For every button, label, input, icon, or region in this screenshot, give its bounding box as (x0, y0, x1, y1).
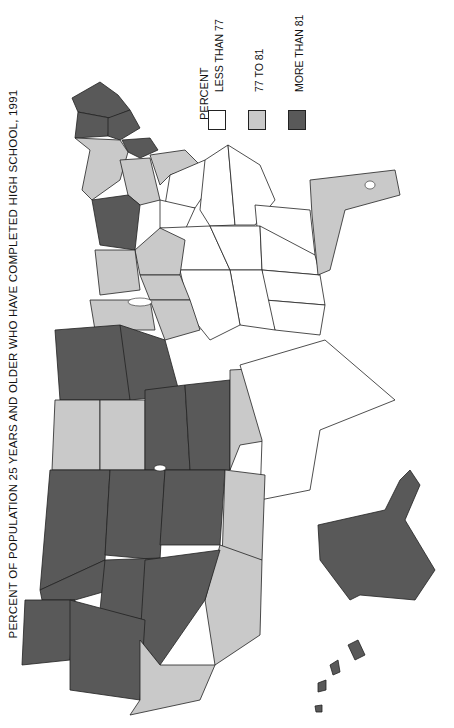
us-choropleth-map (0, 0, 454, 728)
state-CA (130, 640, 215, 715)
state-NM (222, 470, 265, 560)
state-NY (75, 138, 128, 200)
state-ND (52, 400, 100, 470)
legend-swatch-low (208, 110, 226, 130)
state-FL (310, 170, 400, 275)
state-CO (160, 470, 225, 545)
lake-michigan (128, 298, 152, 306)
state-MS (262, 270, 325, 305)
state-VT (92, 195, 140, 250)
state-KS (185, 380, 230, 470)
state-WA (22, 600, 75, 665)
state-AK (318, 470, 435, 600)
great-salt-lake (154, 465, 166, 471)
legend-label-mid: 77 TO 81 (253, 49, 265, 92)
state-HI (315, 640, 365, 712)
legend-swatch-mid (248, 110, 266, 130)
legend-label-high: MORE THAN 81 (293, 15, 305, 92)
state-WY (105, 470, 165, 560)
state-NE (145, 385, 190, 470)
legend-swatch-high (288, 110, 306, 130)
legend-label-low: LESS THAN 77 (213, 19, 225, 92)
lake-okeechobee (365, 181, 375, 189)
state-SD (100, 400, 145, 470)
state-MI (95, 250, 140, 295)
